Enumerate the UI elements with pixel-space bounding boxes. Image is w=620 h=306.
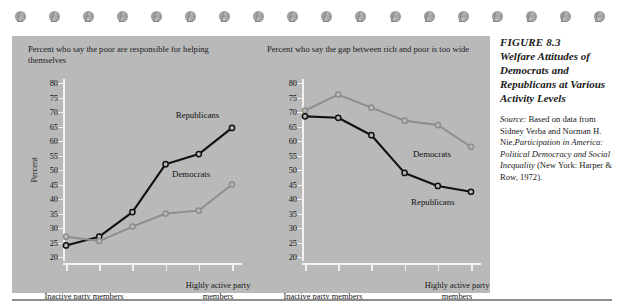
data-point-marker: [63, 243, 68, 248]
chart-right-plot-area: 80757065605550454035302520 Inactive part…: [302, 83, 478, 257]
data-point-marker: [302, 114, 307, 119]
data-point-marker: [468, 189, 473, 194]
floral-ornament-icon: [320, 10, 333, 23]
figure-title: Welfare Attitudes of Democrats and Repub…: [500, 49, 612, 105]
series-line-democrats: [66, 185, 232, 242]
x-axis-tick: [305, 264, 307, 271]
data-point-marker: [163, 162, 168, 167]
series-label-republicans: Republicans: [176, 110, 220, 120]
floral-ornament-icon: [14, 10, 27, 23]
y-axis-tick-label: 50: [50, 166, 58, 175]
y-axis-tick-label: 50: [289, 166, 297, 175]
chart-right-series-svg: [302, 83, 478, 257]
y-axis-tick-label: 25: [50, 238, 58, 247]
y-axis-tick: [297, 257, 304, 258]
x-axis-tick: [199, 264, 201, 271]
data-point-marker: [369, 105, 374, 110]
floral-ornament-icon: [354, 10, 367, 23]
floral-ornament-icon: [184, 10, 197, 23]
x-caption-inactive-right: Inactive party members: [280, 292, 366, 303]
y-axis-tick-label: 35: [289, 209, 297, 218]
data-point-marker: [402, 118, 407, 123]
y-axis-tick-label: 70: [50, 108, 58, 117]
floral-ornament-icon: [218, 10, 231, 23]
bottom-divider-rule: [12, 299, 612, 301]
y-axis-tick-label: 65: [289, 122, 297, 131]
floral-ornament-icon: [559, 10, 572, 23]
floral-ornament-icon: [82, 10, 95, 23]
data-point-marker: [196, 151, 201, 156]
x-axis-line-left: [63, 263, 242, 265]
figure-number: FIGURE 8.3: [500, 36, 612, 48]
floral-ornament-icon: [491, 10, 504, 23]
floral-ornament-icon: [423, 10, 436, 23]
source-lead-label: Source:: [500, 114, 526, 124]
chart-left-plot-area: Percent 80757065605550454035302520 Inact…: [63, 83, 239, 257]
y-axis-tick-label: 55: [50, 151, 58, 160]
series-line-republicans: [66, 128, 232, 245]
data-point-marker: [229, 125, 234, 130]
y-axis-tick-label: 40: [50, 195, 58, 204]
data-point-marker: [97, 238, 102, 243]
data-point-marker: [435, 183, 440, 188]
floral-ornament-icon: [389, 10, 402, 23]
data-point-marker: [130, 209, 135, 214]
y-axis-tick-label: 75: [50, 93, 58, 102]
data-point-marker: [369, 133, 374, 138]
y-axis-tick-label: 70: [289, 108, 297, 117]
x-axis-tick: [66, 264, 68, 271]
y-axis-tick-label: 30: [50, 224, 58, 233]
data-point-marker: [163, 211, 168, 216]
floral-ornament-icon: [286, 10, 299, 23]
chart-left-title: Percent who say the poor are responsible…: [28, 44, 243, 67]
decorative-ornament-strip: [0, 0, 620, 32]
floral-ornament-icon: [252, 10, 265, 23]
chart-right-title: Percent who say the gap between rich and…: [267, 44, 482, 55]
y-axis-label-left: Percent: [30, 157, 39, 182]
chart-left-poor-responsible: Percent who say the poor are responsible…: [12, 36, 251, 293]
data-point-marker: [336, 92, 341, 97]
y-axis-tick-label: 60: [50, 137, 58, 146]
floral-ornament-icon: [525, 10, 538, 23]
data-point-marker: [302, 108, 307, 113]
y-axis-tick-label: 45: [50, 180, 58, 189]
data-point-marker: [435, 122, 440, 127]
y-axis-tick: [58, 257, 65, 258]
y-axis-tick-label: 20: [289, 253, 297, 262]
floral-ornament-icon: [457, 10, 470, 23]
y-axis-tick-label: 60: [289, 137, 297, 146]
data-point-marker: [130, 224, 135, 229]
y-axis-tick-label: 65: [50, 122, 58, 131]
x-axis-tick: [438, 264, 440, 271]
x-axis-tick: [166, 264, 168, 271]
x-axis-tick: [338, 264, 340, 271]
figure-source-note: Source: Based on data from Sidney Verba …: [500, 114, 612, 183]
floral-ornament-icon: [116, 10, 129, 23]
y-axis-tick-label: 25: [289, 238, 297, 247]
data-point-marker: [229, 182, 234, 187]
x-axis-line-right: [302, 263, 481, 265]
x-axis-tick: [371, 264, 373, 271]
y-axis-tick-label: 55: [289, 151, 297, 160]
figure-panel: Percent who say the poor are responsible…: [12, 36, 490, 293]
data-point-marker: [196, 208, 201, 213]
x-axis-tick: [232, 264, 234, 271]
y-axis-tick-label: 75: [289, 93, 297, 102]
y-axis-tick-label: 40: [289, 195, 297, 204]
series-label-democrats: Democrats: [413, 149, 451, 159]
y-axis-tick-label: 20: [50, 253, 58, 262]
floral-ornament-icon: [593, 10, 606, 23]
y-axis-tick-label: 35: [50, 209, 58, 218]
x-caption-inactive-left: Inactive party members: [41, 292, 127, 303]
series-label-republicans: Republicans: [411, 197, 455, 207]
data-point-marker: [402, 170, 407, 175]
y-axis-tick-label: 30: [289, 224, 297, 233]
x-axis-tick: [405, 264, 407, 271]
figure-caption-column: FIGURE 8.3 Welfare Attitudes of Democrat…: [500, 36, 612, 183]
series-line-democrats: [305, 95, 471, 147]
x-axis-tick: [99, 264, 101, 271]
data-point-marker: [468, 144, 473, 149]
chart-right-gap-too-wide: Percent who say the gap between rich and…: [251, 36, 490, 293]
data-point-marker: [63, 234, 68, 239]
y-axis-tick-label: 80: [50, 79, 58, 88]
